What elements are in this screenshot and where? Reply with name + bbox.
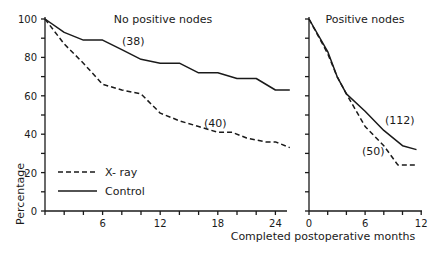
n-label-xray-right: (50) bbox=[362, 145, 385, 158]
x-tick-label: 6 bbox=[362, 218, 368, 229]
control-line bbox=[309, 19, 417, 150]
legend-xray-label: X- ray bbox=[105, 166, 138, 179]
y-axis-label: Percentage bbox=[14, 163, 27, 225]
left-panel-lines bbox=[45, 19, 290, 148]
n-label-xray-left: (40) bbox=[204, 117, 227, 130]
x-tick-label: 18 bbox=[211, 218, 224, 229]
x-tick-label: 12 bbox=[415, 218, 428, 229]
y-tick-label: 60 bbox=[24, 91, 37, 102]
y-tick-label: 40 bbox=[24, 129, 37, 140]
control-line bbox=[45, 19, 290, 90]
right-panel-lines bbox=[309, 19, 417, 165]
survival-chart: 02040608010061218240612 No positive node… bbox=[0, 0, 446, 254]
y-tick-label: 100 bbox=[18, 14, 37, 25]
y-tick-label: 80 bbox=[24, 52, 37, 63]
x-tick-label: 6 bbox=[99, 218, 105, 229]
left-panel-title: No positive nodes bbox=[114, 13, 213, 26]
left-panel-axes bbox=[41, 17, 287, 215]
x-tick-label: 24 bbox=[269, 218, 282, 229]
n-label-control-left: (38) bbox=[122, 35, 145, 48]
n-label-control-right: (112) bbox=[385, 114, 415, 127]
x-tick-label: 12 bbox=[154, 218, 167, 229]
y-tick-label: 0 bbox=[31, 206, 37, 217]
right-panel-title: Positive nodes bbox=[325, 13, 404, 26]
x-tick-label: 0 bbox=[306, 218, 312, 229]
x-axis-label: Completed postoperative months bbox=[231, 230, 416, 243]
xray-line bbox=[45, 19, 290, 148]
legend: X- ray Control bbox=[58, 166, 145, 198]
legend-control-label: Control bbox=[105, 185, 145, 198]
